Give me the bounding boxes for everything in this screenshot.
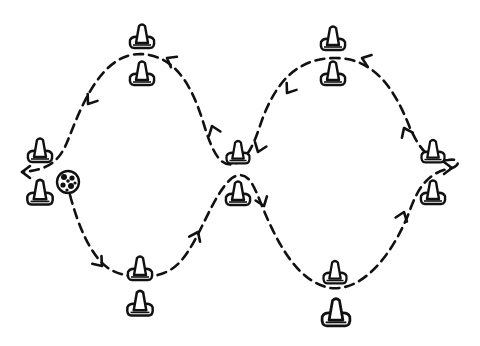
drill-diagram: Figure-eight dribbling drill through con… bbox=[0, 0, 480, 346]
diagram-svg bbox=[0, 0, 480, 346]
soccer-ball-icon bbox=[57, 171, 79, 193]
